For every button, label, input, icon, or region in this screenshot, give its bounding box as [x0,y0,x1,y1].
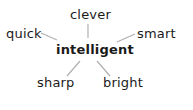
connector-sharp [67,61,80,76]
connector-bright [97,61,110,76]
node-clever: clever [70,8,111,22]
connector-smart [117,34,135,42]
word-web-diagram: clever quick smart intelligent sharp bri… [0,0,193,110]
node-smart: smart [137,27,176,41]
node-bright: bright [103,76,143,90]
center-node-intelligent: intelligent [56,43,134,57]
node-quick: quick [6,27,42,41]
connector-quick [41,33,57,40]
node-sharp: sharp [37,76,75,90]
